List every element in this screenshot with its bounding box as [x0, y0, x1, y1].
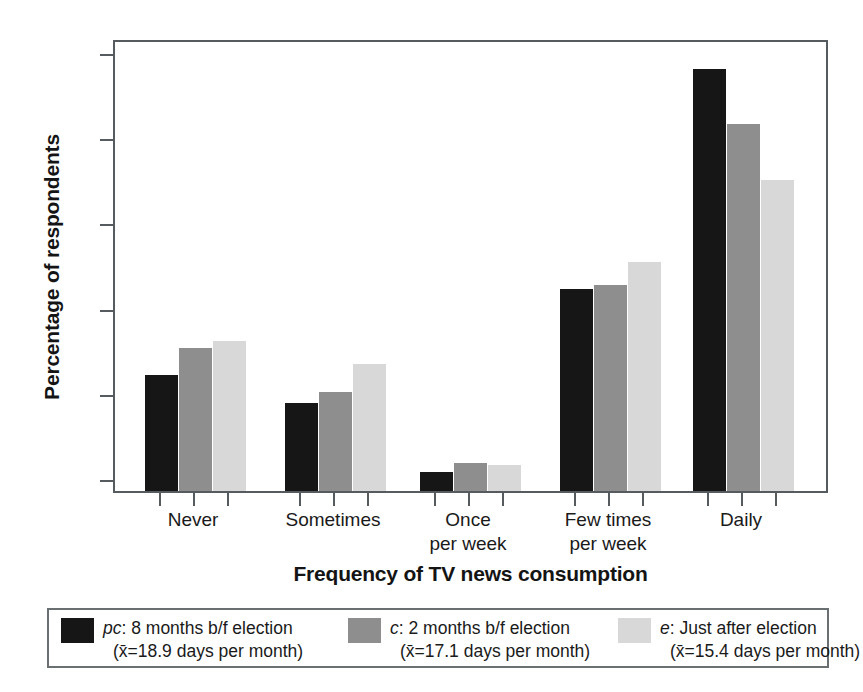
bar [179, 348, 212, 491]
x-tick-mark [333, 493, 335, 506]
bar-group [560, 42, 661, 491]
x-tick-mark [468, 493, 470, 506]
bar [353, 364, 386, 491]
bar-group [285, 42, 386, 491]
bar [420, 472, 453, 491]
legend-item[interactable]: pc: 8 months b/f election(x̄=18.9 days p… [49, 617, 336, 663]
x-tick-mark [608, 493, 610, 506]
x-axis-label: Never [168, 508, 219, 532]
plot-area [113, 40, 828, 493]
x-axis-label-line1: Once [429, 508, 506, 532]
legend-label-line2: (x̄=18.9 days per month) [103, 640, 303, 663]
x-axis-label-line1: Never [168, 508, 219, 532]
legend-text: c: 2 months b/f election(x̄=17.1 days pe… [390, 617, 590, 663]
y-tick-mark [100, 395, 113, 397]
legend-label-line1: e: Just after election [660, 617, 860, 640]
y-tick-mark [100, 310, 113, 312]
legend-label-line1: pc: 8 months b/f election [103, 617, 303, 640]
x-axis-label-line1: Sometimes [285, 508, 380, 532]
x-tick-mark [642, 493, 644, 506]
x-tick-mark [502, 493, 504, 506]
x-tick-mark [367, 493, 369, 506]
bar [693, 69, 726, 491]
y-tick-mark [100, 224, 113, 226]
legend-label-line2: (x̄=15.4 days per month) [660, 640, 860, 663]
legend-text: pc: 8 months b/f election(x̄=18.9 days p… [103, 617, 303, 663]
bar [319, 392, 352, 491]
x-tick-mark [707, 493, 709, 506]
x-tick-mark [193, 493, 195, 506]
legend-item[interactable]: c: 2 months b/f election(x̄=17.1 days pe… [336, 617, 606, 663]
bar-group [420, 42, 521, 491]
legend-swatch [61, 618, 94, 643]
bar [454, 463, 487, 491]
x-tick-mark [434, 493, 436, 506]
bar [145, 375, 178, 491]
x-axis-label-line1: Daily [720, 508, 762, 532]
bar-group [693, 42, 794, 491]
legend-swatch [618, 618, 651, 643]
legend-item[interactable]: e: Just after election(x̄=15.4 days per … [606, 617, 860, 663]
x-axis-label-line2: per week [429, 532, 506, 556]
y-tick-mark [100, 480, 113, 482]
bar [213, 341, 246, 491]
x-axis-label: Onceper week [429, 508, 506, 556]
bar [285, 403, 318, 491]
chart-legend: pc: 8 months b/f election(x̄=18.9 days p… [47, 608, 829, 668]
legend-label-line1: c: 2 months b/f election [390, 617, 590, 640]
x-tick-mark [159, 493, 161, 506]
x-axis-label: Sometimes [285, 508, 380, 532]
x-tick-mark [741, 493, 743, 506]
bar [488, 465, 521, 491]
bars-layer [115, 42, 826, 491]
x-tick-mark [299, 493, 301, 506]
x-tick-mark [775, 493, 777, 506]
bar [628, 262, 661, 491]
bar [761, 180, 794, 491]
legend-label-line2: (x̄=17.1 days per month) [390, 640, 590, 663]
bar [727, 124, 760, 491]
legend-swatch [348, 618, 381, 643]
legend-text: e: Just after election(x̄=15.4 days per … [660, 617, 860, 663]
y-tick-mark [100, 54, 113, 56]
bar-chart-figure: Percentage of respondents 50%40%30%20%10… [0, 0, 863, 692]
x-axis-label: Daily [720, 508, 762, 532]
bar [594, 285, 627, 491]
x-axis-label-line2: per week [565, 532, 652, 556]
x-tick-mark [227, 493, 229, 506]
x-axis-title: Frequency of TV news consumption [113, 562, 828, 586]
x-tick-mark [574, 493, 576, 506]
y-tick-mark [100, 139, 113, 141]
x-axis-label-line1: Few times [565, 508, 652, 532]
bar-group [145, 42, 246, 491]
bar [560, 289, 593, 491]
y-axis-title: Percentage of respondents [40, 47, 64, 487]
x-axis-label: Few timesper week [565, 508, 652, 556]
